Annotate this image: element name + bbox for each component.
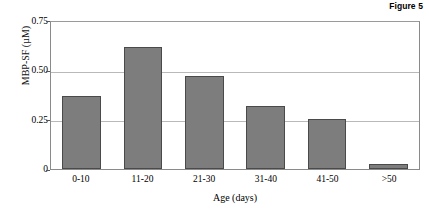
bar-slot-gt50 — [358, 22, 419, 169]
x-tick-label-0-10: 0-10 — [50, 174, 112, 185]
bar-slot-0-10 — [51, 22, 112, 169]
x-tick-label-21-30: 21-30 — [173, 174, 235, 185]
bar-11-20[interactable] — [124, 47, 163, 169]
y-tick-label-0: 0 — [2, 165, 48, 175]
bar-slot-31-40 — [235, 22, 296, 169]
figure-label: Figure 5 — [389, 1, 423, 11]
plot-area — [50, 21, 420, 170]
figure-container: Figure 5 0.75 0.50 0.25 0 MBP-SF (µM) — [0, 0, 429, 213]
x-tick-label-31-40: 31-40 — [235, 174, 297, 185]
bar-slot-41-50 — [296, 22, 357, 169]
bar-series — [51, 22, 419, 169]
x-axis-title: Age (days) — [50, 192, 420, 203]
bar-41-50[interactable] — [308, 119, 347, 169]
x-tick-label-gt50: >50 — [358, 174, 420, 185]
bar-slot-21-30 — [174, 22, 235, 169]
x-tick-labels: 0-10 11-20 21-30 31-40 41-50 >50 — [50, 174, 420, 185]
x-tick-label-11-20: 11-20 — [112, 174, 174, 185]
bar-31-40[interactable] — [246, 106, 285, 169]
bar-slot-11-20 — [112, 22, 173, 169]
y-tick-mark-0 — [46, 170, 50, 171]
bar-21-30[interactable] — [185, 76, 224, 169]
x-tick-label-41-50: 41-50 — [297, 174, 359, 185]
bar-gt50[interactable] — [369, 164, 408, 169]
bar-0-10[interactable] — [62, 96, 101, 169]
y-axis-title: MBP-SF (µM) — [20, 0, 31, 136]
